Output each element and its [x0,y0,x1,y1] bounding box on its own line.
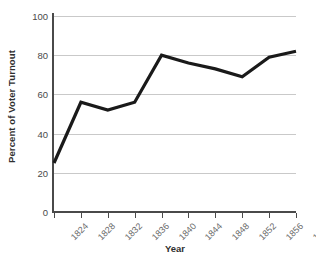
x-axis-tick-label: 1836 [150,221,171,242]
x-axis-tick-label: 1856 [284,221,305,242]
x-axis-tick [135,213,136,218]
x-axis-tick-label: 1828 [96,221,117,242]
voter-turnout-line-chart: Percent of Voter Turnout 020406080100 18… [0,0,316,263]
x-axis-tick-label: 1832 [123,221,144,242]
x-axis-tick-label: 1852 [257,221,278,242]
x-axis-tick [296,213,297,218]
x-axis-tick-label: 1860 [311,221,316,242]
plot-area [54,16,296,212]
x-axis-tick-label: 1824 [69,221,90,242]
voter-turnout-polyline [54,51,296,163]
y-axis-tick-label: 40 [20,128,48,139]
x-axis-tick [269,213,270,218]
y-axis-tick-labels: 020406080100 [14,16,48,212]
data-series-line [54,16,296,212]
y-axis-tick-label: 60 [20,89,48,100]
x-axis-tick [162,213,163,218]
x-axis-tick-label: 1844 [203,221,224,242]
x-axis-ticks [54,213,296,219]
y-axis-tick-label: 20 [20,167,48,178]
x-axis-tick [215,213,216,218]
x-axis-tick [54,213,55,218]
x-axis-tick-label: 1848 [230,221,251,242]
x-axis-tick [188,213,189,218]
x-axis-title: Year [54,243,296,254]
x-axis-tick [81,213,82,218]
x-axis-tick [242,213,243,218]
x-axis-tick-label: 1840 [176,221,197,242]
y-axis-tick-label: 100 [20,11,48,22]
y-axis-tick-label: 80 [20,50,48,61]
x-axis-tick [108,213,109,218]
y-axis-tick-label: 0 [20,207,48,218]
